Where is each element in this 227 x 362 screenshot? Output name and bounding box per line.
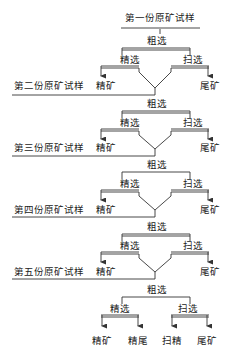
cleaner-label-2: 精选 bbox=[120, 118, 140, 128]
scavenger-concentrate-label: 扫精 bbox=[162, 336, 182, 346]
tailings-label-3: 尾矿 bbox=[200, 205, 220, 215]
sample-label-4: 第四份原矿试样 bbox=[14, 205, 84, 215]
final-concentrate-label: 精矿 bbox=[92, 336, 112, 346]
sample-label-3: 第三份原矿试样 bbox=[14, 143, 84, 153]
concentrate-label-2: 精矿 bbox=[96, 143, 116, 153]
rougher-label-1: 粗选 bbox=[147, 36, 167, 46]
rougher-label-4: 粗选 bbox=[147, 222, 167, 232]
cleaner-label-5: 精选 bbox=[110, 304, 130, 314]
sample-label-5: 第五份原矿试样 bbox=[14, 267, 84, 277]
rougher-label-2: 粗选 bbox=[147, 99, 167, 109]
tailings-label-2: 尾矿 bbox=[200, 143, 220, 153]
rougher-label-5: 粗选 bbox=[147, 285, 167, 295]
scavenger-label-1: 扫选 bbox=[183, 55, 203, 65]
tailings-label-1: 尾矿 bbox=[200, 81, 220, 91]
concentrate-label-4: 精矿 bbox=[96, 267, 116, 277]
final-tailings-label: 尾矿 bbox=[197, 336, 217, 346]
scavenger-label-4: 扫选 bbox=[183, 241, 203, 251]
concentrate-label-3: 精矿 bbox=[96, 205, 116, 215]
rougher-label-3: 粗选 bbox=[147, 160, 167, 170]
tailings-label-4: 尾矿 bbox=[200, 267, 220, 277]
cleaner-label-3: 精选 bbox=[120, 179, 140, 189]
cleaner-label-1: 精选 bbox=[120, 55, 140, 65]
scavenger-label-3: 扫选 bbox=[183, 179, 203, 189]
scavenger-label-2: 扫选 bbox=[183, 118, 203, 128]
concentrate-label-1: 精矿 bbox=[96, 81, 116, 91]
scavenger-label-5: 扫选 bbox=[178, 304, 198, 314]
title-first-sample: 第一份原矿试样 bbox=[125, 13, 195, 23]
sample-label-2: 第二份原矿试样 bbox=[14, 81, 84, 91]
cleaner-tailings-label: 精尾 bbox=[128, 336, 148, 346]
cleaner-label-4: 精选 bbox=[120, 241, 140, 251]
